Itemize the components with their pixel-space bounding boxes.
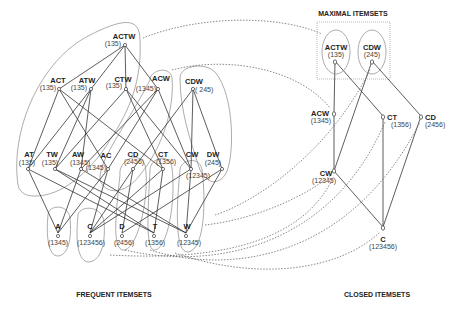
svg-text:( 245): ( 245) — [195, 86, 213, 94]
closed-itemsets-title: CLOSED ITEMSETS — [344, 291, 410, 298]
svg-text:(2456): (2456) — [124, 158, 144, 166]
svg-text:(2456): (2456) — [425, 121, 445, 129]
svg-text:CW: CW — [186, 150, 199, 159]
svg-text:(1345): (1345) — [136, 85, 156, 93]
frequent-itemsets-title: FREQUENT ITEMSETS — [76, 291, 152, 299]
svg-text:(1345): (1345) — [48, 239, 68, 247]
svg-text:(123456): (123456) — [77, 239, 105, 247]
svg-text:(245): (245) — [364, 51, 380, 59]
svg-text:A: A — [55, 222, 61, 231]
closed-node-C[interactable]: C (123456) — [369, 226, 397, 251]
svg-text:W: W — [183, 222, 191, 231]
svg-text:(135): (135) — [40, 84, 56, 92]
closed-lattice-edges — [334, 61, 421, 227]
closed-node-CW[interactable]: CW (12345) — [312, 169, 336, 185]
svg-text:AT: AT — [24, 150, 34, 159]
svg-text:(245): (245) — [205, 159, 221, 167]
svg-text:(135): (135) — [106, 82, 122, 90]
node-CDW[interactable]: CDW ( 245) — [185, 77, 213, 94]
closed-node-CD[interactable]: CD (2456) — [419, 113, 445, 129]
svg-text:AC: AC — [101, 151, 112, 160]
svg-text:(12345): (12345) — [177, 239, 201, 247]
maximal-nodes: ACTW (135) CDW (245) — [325, 43, 382, 64]
node-CD[interactable]: CD (2456) — [124, 150, 144, 171]
svg-text:(135): (135) — [328, 51, 344, 59]
svg-text:(1345): (1345) — [86, 164, 106, 172]
node-ACTW[interactable]: ACTW (135) — [105, 32, 137, 48]
svg-text:T: T — [153, 222, 158, 231]
maximal-itemsets-title: MAXIMAL ITEMSETS — [318, 10, 388, 17]
svg-text:DW: DW — [207, 150, 220, 159]
closed-node-ACW[interactable]: ACW (1345) — [311, 109, 336, 125]
frequent-lattice-edges — [28, 45, 222, 233]
node-ACW[interactable]: ACW (1345) — [136, 74, 171, 93]
node-AT[interactable]: AT (135) — [19, 150, 35, 171]
svg-text:(135): (135) — [19, 159, 35, 167]
svg-text:(135): (135) — [71, 84, 87, 92]
node-TW[interactable]: TW (135) — [42, 150, 59, 171]
maximal-node-CDW[interactable]: CDW (245) — [363, 43, 382, 64]
svg-text:AW: AW — [72, 150, 85, 159]
svg-text:(135): (135) — [105, 40, 121, 48]
node-A[interactable]: A (1345) — [48, 222, 68, 247]
maximal-node-ACTW[interactable]: ACTW (135) — [325, 43, 348, 64]
svg-text:ACW: ACW — [152, 74, 171, 83]
node-CT[interactable]: CT (1356) — [156, 150, 176, 171]
node-W[interactable]: W (12345) — [177, 222, 201, 247]
svg-text:(12345): (12345) — [186, 172, 210, 180]
node-D[interactable]: D (2456) — [114, 222, 134, 247]
svg-text:C: C — [87, 222, 93, 231]
svg-text:(12345): (12345) — [312, 177, 336, 185]
svg-text:(2456): (2456) — [114, 239, 134, 247]
svg-text:(1356): (1356) — [391, 121, 411, 129]
svg-text:(135): (135) — [42, 159, 58, 167]
svg-text:(1356): (1356) — [145, 239, 165, 247]
svg-text:TW: TW — [46, 150, 59, 159]
svg-text:(1356): (1356) — [156, 158, 176, 166]
svg-text:D: D — [119, 222, 125, 231]
svg-text:CDW: CDW — [185, 77, 204, 86]
node-DW[interactable]: DW (245) — [205, 150, 224, 171]
svg-text:(1345): (1345) — [311, 117, 331, 125]
itemset-lattice-diagram: MAXIMAL ITEMSETS FREQUENT ITEMSETS CLOSE… — [0, 0, 455, 314]
closed-node-CT[interactable]: CT (1356) — [381, 113, 411, 129]
closed-nodes: ACW (1345) CT (1356) CD (2456) CW (12345… — [311, 109, 445, 251]
node-CTW[interactable]: CTW (135) — [106, 75, 133, 91]
svg-text:(123456): (123456) — [369, 243, 397, 251]
